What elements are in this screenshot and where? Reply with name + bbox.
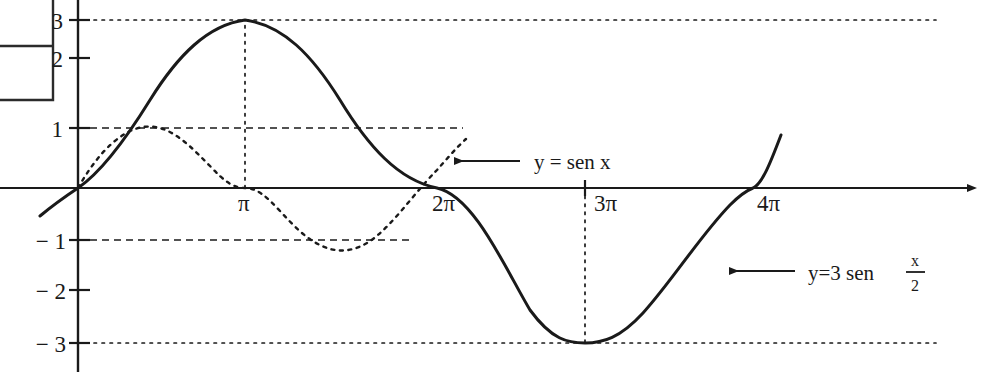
x-tick-label-pi: π: [238, 191, 250, 216]
annotation-label-3sen: y=3 sen: [808, 261, 875, 285]
y-tick-label-neg3: − 3: [36, 332, 66, 357]
figure-canvas: y = sen x y=3 sen x 2 3 2 1 − 1 − 2 − 3 …: [0, 0, 990, 377]
y-tick-label-2: 2: [52, 47, 64, 72]
annotation-frac-denominator: 2: [911, 277, 919, 294]
y-tick-label-neg1: − 1: [36, 229, 66, 254]
x-tick-label-4pi: 4π: [757, 191, 781, 216]
y-tick-label-3: 3: [52, 9, 64, 34]
annotation-label-sen-x: y = sen x: [534, 150, 611, 174]
y-tick-label-1: 1: [52, 117, 64, 142]
annotation-frac-numerator: x: [911, 252, 919, 269]
x-tick-label-3pi: 3π: [594, 191, 618, 216]
x-tick-label-2pi: 2π: [432, 191, 456, 216]
y-tick-label-neg2: − 2: [36, 279, 66, 304]
sine-graph-svg: y = sen x y=3 sen x 2 3 2 1 − 1 − 2 − 3 …: [0, 0, 990, 377]
